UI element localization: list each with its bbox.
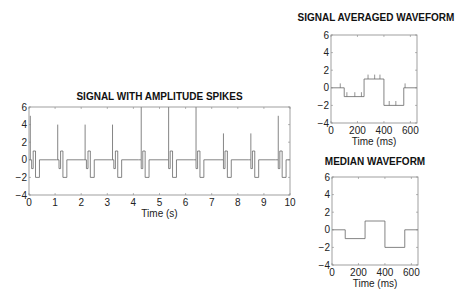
y-tick-label: 0 — [323, 82, 329, 93]
y-tick-label: 6 — [323, 30, 329, 41]
x-tick-label: 9 — [261, 197, 267, 208]
x-tick-label: 0 — [26, 197, 32, 208]
y-tick-label: −2 — [319, 242, 331, 253]
x-tick-label: 400 — [376, 125, 393, 136]
y-tick-label: −2 — [16, 172, 28, 183]
x-tick-label: 3 — [105, 197, 111, 208]
x-tick-label: 10 — [284, 197, 296, 208]
median-chart: 0200400600−4−20246Time (ms) — [319, 172, 421, 290]
x-tick-label: 0 — [328, 125, 334, 136]
avg-chart-line — [331, 79, 417, 105]
y-tick-label: 6 — [21, 102, 27, 113]
y-tick-label: 4 — [21, 119, 27, 130]
y-tick-label: −4 — [318, 118, 330, 129]
avg-chart: 0200400600−4−20246Time (ms) — [318, 30, 420, 148]
y-tick-label: 0 — [21, 154, 27, 165]
x-tick-label: 6 — [183, 197, 189, 208]
main-chart-x-axis-label: Time (s) — [141, 208, 177, 219]
x-tick-label: 400 — [377, 267, 394, 278]
avg-chart-x-axis-label: Time (ms) — [352, 136, 397, 147]
y-tick-label: 4 — [323, 47, 329, 58]
y-tick-label: 6 — [324, 172, 330, 183]
main-chart: 012345678910−4−20246Time (s) — [16, 98, 303, 219]
x-tick-label: 2 — [78, 197, 84, 208]
y-tick-label: −2 — [318, 100, 330, 111]
signal-line — [29, 151, 303, 177]
y-tick-label: 2 — [323, 65, 329, 76]
x-tick-label: 200 — [350, 267, 367, 278]
y-tick-label: −4 — [16, 190, 28, 201]
y-tick-label: −4 — [319, 260, 331, 271]
x-tick-label: 5 — [157, 197, 163, 208]
x-tick-label: 600 — [402, 125, 419, 136]
x-tick-label: 8 — [235, 197, 241, 208]
y-tick-label: 2 — [324, 207, 330, 218]
x-tick-label: 4 — [131, 197, 137, 208]
y-tick-label: 4 — [324, 189, 330, 200]
x-tick-label: 600 — [403, 267, 420, 278]
y-tick-label: 2 — [21, 137, 27, 148]
x-tick-label: 7 — [209, 197, 215, 208]
median-chart-plot-area — [332, 221, 418, 247]
median-chart-x-axis-label: Time (ms) — [353, 278, 398, 289]
charts-canvas: 012345678910−4−20246Time (s)0200400600−4… — [0, 0, 457, 305]
x-tick-label: 200 — [349, 125, 366, 136]
x-tick-label: 0 — [329, 267, 335, 278]
avg-chart-plot-area — [331, 75, 417, 106]
y-tick-label: 0 — [324, 224, 330, 235]
median-chart-line — [332, 221, 418, 247]
main-chart-plot-area — [29, 98, 303, 177]
x-tick-label: 1 — [52, 197, 58, 208]
